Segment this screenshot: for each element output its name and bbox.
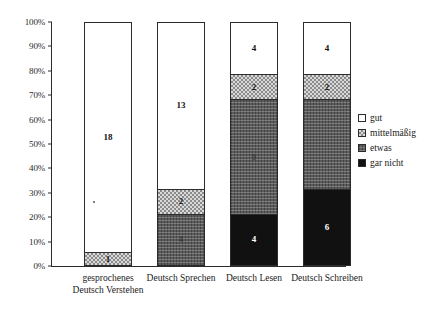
legend-label: etwas [370,143,392,153]
y-axis-tick-mark [48,168,52,169]
legend-swatch-icon [358,159,366,167]
bar-segment-value: 9 [252,153,257,162]
bar-segment [304,99,350,188]
bar-segment-value: 4 [252,44,257,53]
x-axis-label: Deutsch Schreiben [277,272,377,284]
bar-segment: 13 [158,23,204,189]
legend-item: gut [358,113,416,123]
bar-segment-value: 4 [325,44,330,53]
bar-segment: 2 [158,189,204,214]
chart-legend: gutmittelmäßigetwasgar nicht [358,113,416,168]
legend-item: mittelmäßig [358,128,416,138]
bar-segment-value: 2 [252,83,257,92]
y-axis-tick-mark [48,119,52,120]
bar-segment: 4 [158,214,204,265]
stray-mark [93,201,95,203]
bar-segment-value: 2 [179,197,184,206]
bar: 1324 [157,22,205,266]
y-axis-tick-mark [48,217,52,218]
legend-swatch-icon [358,144,366,152]
bar-segment-value: 4 [179,235,184,244]
bar-segment: 4 [304,23,350,74]
y-axis-tick-mark [48,192,52,193]
bar-segment-value: 2 [325,83,330,92]
y-axis-tick-mark [48,266,52,267]
bar-segment: 4 [231,214,277,265]
bar-segment: 2 [304,74,350,99]
y-axis-tick-mark [48,144,52,145]
y-axis-tick-mark [48,46,52,47]
bar-segment-value: 4 [252,235,257,244]
legend-swatch-icon [358,114,366,122]
legend-label: gut [370,113,382,123]
legend-label: gar nicht [370,158,404,168]
legend-item: etwas [358,143,416,153]
bar-segment: 2 [231,74,277,99]
bar-segment: 18 [85,23,131,252]
y-axis-tick-mark [48,22,52,23]
bar: 426 [303,22,351,266]
bar-segment-value: 1 [106,255,111,264]
bar-segment-value: 13 [177,101,186,110]
stacked-bar-chart: 0%10%20%30%40%50%60%70%80%90%100% 181132… [0,0,433,309]
legend-swatch-icon [358,129,366,137]
x-axis-line [51,266,346,267]
y-axis-tick-mark [48,70,52,71]
bar-segment: 6 [304,189,350,265]
legend-item: gar nicht [358,158,416,168]
bar: 181 [84,22,132,266]
bar-segment: 9 [231,99,277,214]
bar-segment-value: 18 [104,133,113,142]
bar: 4294 [230,22,278,266]
bar-segment: 4 [231,23,277,74]
bar-segment-value: 6 [325,223,330,232]
y-axis-tick-mark [48,241,52,242]
plot-area: 0%10%20%30%40%50%60%70%80%90%100% 181132… [52,22,345,266]
legend-label: mittelmäßig [370,128,416,138]
bar-segment: 1 [85,252,131,265]
y-axis-tick-mark [48,95,52,96]
